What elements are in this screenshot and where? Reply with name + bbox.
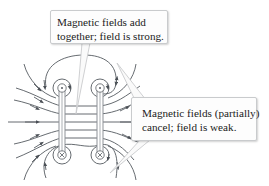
field-lines <box>8 55 148 180</box>
pointer-strong <box>76 43 90 114</box>
callout-text-line: together; field is strong. <box>57 29 161 43</box>
callout-fields-add: Magnetic fields add together; field is s… <box>50 10 168 44</box>
callout-text-line: cancel; field is weak. <box>142 120 250 134</box>
callout-fields-cancel: Magnetic fields (partially) cancel; fiel… <box>131 97 257 141</box>
current-in-icon <box>96 151 104 159</box>
wires <box>58 84 104 159</box>
callout-text-line: Magnetic fields (partially) <box>142 106 250 120</box>
current-in-icon <box>58 151 66 159</box>
pointer-weak-upper <box>117 63 146 100</box>
current-out-icon <box>58 84 66 92</box>
current-out-icon <box>96 84 104 92</box>
callout-text-line: Magnetic fields add <box>57 15 161 29</box>
